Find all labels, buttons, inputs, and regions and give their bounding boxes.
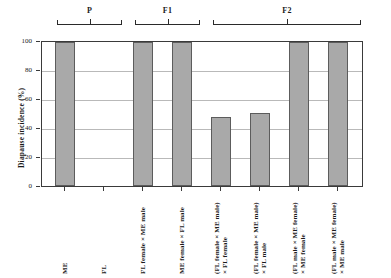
bracket-tick-left <box>57 20 58 25</box>
bracket-tick-right <box>199 20 200 25</box>
y-tick-mark <box>36 157 40 158</box>
bracket-tick-left <box>213 20 214 25</box>
group-bracket-layer: P F1 F2 <box>0 0 391 42</box>
x-tick-mark <box>220 187 221 191</box>
x-label-line2: × FL male <box>260 202 268 274</box>
x-tick-mark <box>64 187 65 191</box>
bar-fl-female-x-me-male <box>133 42 153 186</box>
x-tick-mark <box>142 187 143 191</box>
x-label-line1: ME <box>61 263 69 274</box>
bracket-tick-right <box>121 20 122 25</box>
gridline-40 <box>42 129 362 130</box>
bar-me <box>55 42 75 186</box>
x-tick-label-fl: FL <box>100 265 108 274</box>
bar-f2-flme-x-me-female <box>289 42 309 186</box>
bar-f2-flme-x-me-male <box>328 42 348 186</box>
x-label-line1: (FL female × ME male) <box>252 202 260 274</box>
y-tick-label-20: 20 <box>14 154 32 161</box>
x-label-line1: FL female × ME male <box>139 207 147 274</box>
x-label-line1: ME female × FL male <box>178 207 186 274</box>
y-tick-label-80: 80 <box>14 67 32 74</box>
chart-figure: P F1 F2 Diapause incidence (%) 100 80 60… <box>0 0 391 278</box>
gridline-20 <box>42 158 362 159</box>
bar-me-female-x-fl-male <box>172 42 192 186</box>
bracket-tick-left <box>135 20 136 25</box>
group-bracket-p: P <box>57 18 122 28</box>
x-label-line1: (FL male × ME female) <box>330 202 338 274</box>
x-label-line1: (FL male × ME female) <box>291 202 299 274</box>
x-tick-mark <box>103 187 104 191</box>
bracket-tick-right <box>360 20 361 25</box>
bracket-tick-center <box>168 19 169 25</box>
x-label-line2: × ME female <box>299 202 307 274</box>
y-tick-mark <box>36 41 40 42</box>
x-tick-label-fl-female-x-me-male: FL female × ME male <box>139 207 147 274</box>
bracket-tick-center <box>90 19 91 25</box>
x-label-line2: × FL female <box>221 202 229 274</box>
y-tick-label-60: 60 <box>14 96 32 103</box>
bracket-tick-center <box>287 19 288 25</box>
x-label-line1: (FL female × ME male) <box>213 202 221 274</box>
y-tick-label-100: 100 <box>14 38 32 45</box>
plot-area <box>41 41 363 187</box>
y-tick-label-0: 0 <box>14 183 32 190</box>
y-tick-mark <box>36 186 40 187</box>
bar-f2-flme-x-fl-male <box>250 113 270 186</box>
y-tick-mark <box>36 99 40 100</box>
x-label-line2: × ME male <box>338 202 346 274</box>
gridline-80 <box>42 71 362 72</box>
x-label-line1: FL <box>100 265 108 274</box>
bar-f2-flme-x-fl-female <box>211 117 231 186</box>
y-tick-mark <box>36 70 40 71</box>
x-tick-label-f2-flme-x-me-male: (FL male × ME female) × ME male <box>330 202 346 274</box>
group-bracket-f2-label: F2 <box>213 6 361 15</box>
group-bracket-f1: F1 <box>135 18 200 28</box>
y-tick-mark <box>36 128 40 129</box>
gridline-60 <box>42 100 362 101</box>
group-bracket-p-label: P <box>57 6 122 15</box>
x-tick-label-me: ME <box>61 263 69 274</box>
x-tick-label-me-female-x-fl-male: ME female × FL male <box>178 207 186 274</box>
x-tick-mark <box>337 187 338 191</box>
x-tick-label-f2-flme-x-fl-female: (FL female × ME male) × FL female <box>213 202 229 274</box>
x-tick-label-f2-flme-x-fl-male: (FL female × ME male) × FL male <box>252 202 268 274</box>
y-tick-label-40: 40 <box>14 125 32 132</box>
x-tick-mark <box>298 187 299 191</box>
group-bracket-f1-label: F1 <box>135 6 200 15</box>
group-bracket-f2: F2 <box>213 18 361 28</box>
x-tick-mark <box>259 187 260 191</box>
x-tick-mark <box>181 187 182 191</box>
x-tick-label-f2-flme-x-me-female: (FL male × ME female) × ME female <box>291 202 307 274</box>
